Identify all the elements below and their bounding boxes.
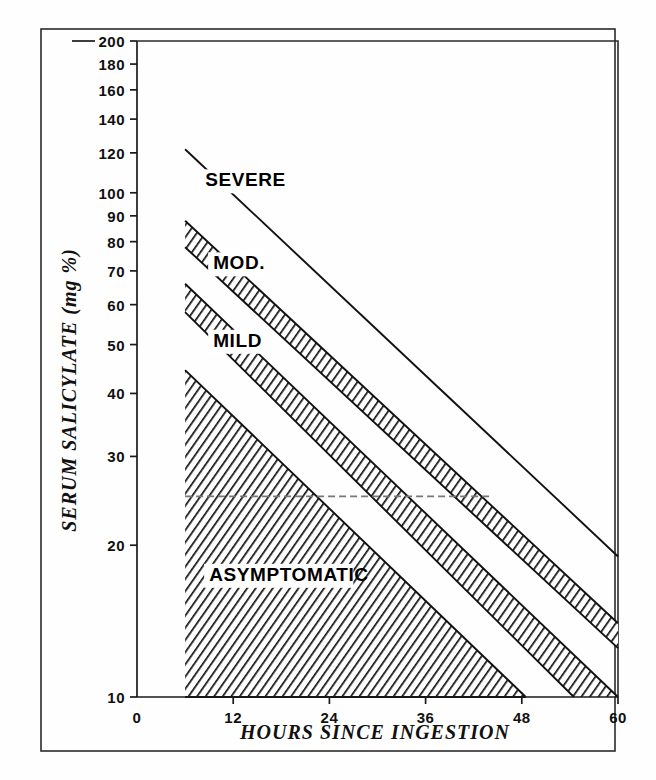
band-label-text: ASYMPTOMATIC <box>209 564 369 585</box>
y-tick-label: 70 <box>107 263 125 280</box>
y-tick-label: 20 <box>107 537 125 554</box>
y-axis <box>72 41 137 697</box>
y-tick-label: 90 <box>107 208 125 225</box>
x-axis-title: HOURS SINCE INGESTION <box>239 721 511 743</box>
chart-canvas: 200180160140120100908070605040302010 012… <box>0 0 656 780</box>
y-tick-label: 200 <box>98 33 125 50</box>
y-tick-label: 40 <box>107 385 125 402</box>
band-label-moderate: MOD. <box>208 252 265 276</box>
severity-bands <box>185 149 618 697</box>
y-tick-label: 30 <box>107 448 125 465</box>
band-label-text: MOD. <box>213 252 265 273</box>
band-label-asymptomatic: ASYMPTOMATIC <box>204 564 369 588</box>
band-3 <box>185 370 526 697</box>
band-label-mild: MILD <box>208 330 264 354</box>
y-tick-label: 100 <box>98 185 125 202</box>
x-axis <box>137 697 618 704</box>
band-label-severe: SEVERE <box>200 169 286 193</box>
x-tick-label: 60 <box>609 709 627 726</box>
y-tick-label: 60 <box>107 297 125 314</box>
band-label-text: MILD <box>213 330 262 351</box>
y-tick-label: 50 <box>107 337 125 354</box>
y-axis-title: SERUM SALICYLATE (mg %) <box>58 248 81 532</box>
y-tick-label: 80 <box>107 234 125 251</box>
y-axis-tick-labels: 200180160140120100908070605040302010 <box>98 33 125 706</box>
y-tick-label: 10 <box>107 689 125 706</box>
y-tick-label: 140 <box>98 111 125 128</box>
x-tick-label: 0 <box>133 709 142 726</box>
x-tick-label: 48 <box>513 709 531 726</box>
done-nomogram-figure: 200180160140120100908070605040302010 012… <box>0 0 656 780</box>
y-tick-label: 160 <box>98 82 125 99</box>
y-tick-label: 120 <box>98 145 125 162</box>
y-tick-label: 180 <box>98 56 125 73</box>
band-label-text: SEVERE <box>205 169 286 190</box>
